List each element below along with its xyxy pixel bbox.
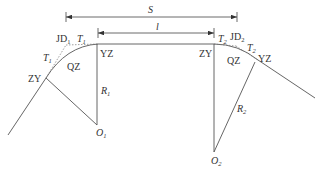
label-jd2: JD2: [230, 31, 244, 43]
label-qz1: QZ: [67, 61, 80, 72]
radius-line-r2: [214, 62, 255, 152]
curve-diagram: S l JD1 T1 T1 QZ ZY YZ R1 O1 T2 JD2 T2: [0, 0, 322, 173]
label-zy2: ZY: [199, 48, 212, 59]
tangent-line-1: [8, 78, 46, 135]
label-r1: R1: [100, 85, 110, 97]
label-t1-top: T1: [77, 33, 86, 45]
tangent-line-2: [258, 60, 315, 98]
label-s: S: [148, 4, 153, 15]
dimension-s: S: [66, 4, 237, 22]
label-t2-right: T2: [247, 42, 257, 54]
curve-2: T2 JD2 T2 QZ ZY YZ R2 O2: [199, 31, 315, 167]
radius-line-zy1: [46, 78, 97, 125]
label-qz2: QZ: [227, 55, 240, 66]
label-t2-top: T2: [218, 33, 228, 45]
label-yz1: YZ: [100, 48, 113, 59]
label-jd1: JD1: [56, 33, 70, 45]
dimension-l: l: [98, 21, 214, 38]
label-yz2: YZ: [258, 53, 271, 64]
label-o2: O2: [211, 155, 222, 167]
label-r2: R2: [236, 103, 247, 115]
label-t1-left: T1: [43, 52, 52, 64]
label-l: l: [156, 21, 159, 32]
label-o1: O1: [96, 127, 106, 139]
curve-1: JD1 T1 T1 QZ ZY YZ R1 O1: [8, 33, 113, 139]
label-zy1: ZY: [28, 73, 41, 84]
